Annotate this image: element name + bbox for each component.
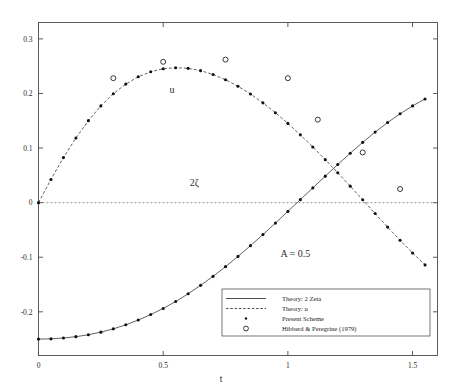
marker-dot xyxy=(62,156,65,159)
marker-open-circle xyxy=(315,117,320,122)
marker-dot xyxy=(112,327,115,330)
figure-container: 00.511.50.30.20.10-0.1-0.2 A = 0.5u2ζ t … xyxy=(0,0,468,389)
marker-dot xyxy=(49,178,52,181)
marker-dot xyxy=(399,112,402,115)
marker-dot xyxy=(137,75,140,78)
chart-canvas: 00.511.50.30.20.10-0.1-0.2 A = 0.5u2ζ t … xyxy=(0,0,468,389)
marker-dot xyxy=(199,69,202,72)
annotation-text: u xyxy=(169,84,174,95)
marker-dot xyxy=(299,133,302,136)
y-tick-label: 0.2 xyxy=(23,89,33,98)
marker-open-circle xyxy=(398,187,403,192)
x-tick-label: 0.5 xyxy=(159,361,169,370)
marker-dot xyxy=(37,338,40,341)
marker-dot xyxy=(87,119,90,122)
annotation-text: A = 0.5 xyxy=(280,248,310,259)
marker-dot xyxy=(374,131,377,134)
x-tick-label: 1 xyxy=(286,361,290,370)
y-tick-label: 0.3 xyxy=(23,35,33,44)
marker-dot xyxy=(212,275,215,278)
marker-dot xyxy=(162,307,165,310)
marker-dot xyxy=(212,73,215,76)
marker-dot xyxy=(249,244,252,247)
marker-dot xyxy=(361,198,364,201)
legend-label: Present Scheme xyxy=(282,315,324,322)
marker-dot xyxy=(187,292,190,295)
marker-dot xyxy=(324,158,327,161)
marker-dot xyxy=(249,92,252,95)
marker-dot xyxy=(149,313,152,316)
marker-dot xyxy=(336,163,339,166)
marker-dot xyxy=(286,122,289,125)
marker-dot xyxy=(37,201,40,204)
annotation-text: 2ζ xyxy=(190,177,199,189)
y-tick-label: 0.1 xyxy=(23,144,33,153)
marker-dot xyxy=(411,251,414,254)
marker-dot xyxy=(162,67,165,70)
marker-dot xyxy=(299,198,302,201)
legend-label: Hibberd & Peregrine (1979) xyxy=(282,325,357,333)
chart-legend: Theory: 2 ZetaTheory: uPresent SchemeHib… xyxy=(222,289,430,336)
marker-dot xyxy=(311,145,314,148)
marker-dot xyxy=(399,239,402,242)
marker-dot xyxy=(124,83,127,86)
marker-dot xyxy=(274,222,277,225)
marker-dot xyxy=(112,92,115,95)
marker-dot xyxy=(74,335,77,338)
marker-open-circle xyxy=(285,76,290,81)
y-tick-label: -0.2 xyxy=(21,308,33,317)
series-line xyxy=(39,68,426,265)
marker-dot xyxy=(361,141,364,144)
marker-dot xyxy=(149,70,152,73)
x-tick-label: 1.5 xyxy=(408,361,418,370)
marker-dot xyxy=(374,212,377,215)
marker-dot xyxy=(224,265,227,268)
marker-dot xyxy=(224,78,227,81)
y-tick-label: -0.1 xyxy=(21,253,33,262)
marker-dot xyxy=(99,104,102,107)
marker-dot xyxy=(423,263,426,266)
marker-dot xyxy=(386,226,389,229)
y-tick-label: 0 xyxy=(29,198,33,207)
marker-open-circle xyxy=(223,57,228,62)
x-axis-label: t xyxy=(220,374,223,384)
x-axis-title: t xyxy=(220,374,223,384)
marker-dot xyxy=(236,255,239,258)
marker-dot xyxy=(349,185,352,188)
marker-dot xyxy=(286,210,289,213)
marker-dot xyxy=(62,336,65,339)
marker-dot xyxy=(174,300,177,303)
x-tick-label: 0 xyxy=(37,361,41,370)
marker-dot xyxy=(349,152,352,155)
marker-dot xyxy=(274,111,277,114)
marker-dot xyxy=(411,104,414,107)
legend-sample-dot xyxy=(245,317,247,319)
marker-dot xyxy=(423,97,426,100)
marker-dot xyxy=(324,175,327,178)
marker-dot xyxy=(311,186,314,189)
marker-dot xyxy=(386,121,389,124)
marker-dot xyxy=(137,318,140,321)
marker-dot xyxy=(261,101,264,104)
legend-label: Theory: 2 Zeta xyxy=(282,295,321,302)
marker-dot xyxy=(336,171,339,174)
marker-dot xyxy=(99,331,102,334)
marker-dot xyxy=(74,136,77,139)
marker-open-circle xyxy=(360,150,365,155)
legend-label: Theory: u xyxy=(282,305,309,312)
marker-dot xyxy=(261,233,264,236)
marker-dot xyxy=(174,66,177,69)
marker-dot xyxy=(124,323,127,326)
marker-dot xyxy=(199,284,202,287)
marker-open-circle xyxy=(161,59,166,64)
marker-open-circle xyxy=(111,76,116,81)
marker-dot xyxy=(236,85,239,88)
marker-dot xyxy=(49,337,52,340)
chart-annotations: A = 0.5u2ζ xyxy=(169,84,310,259)
marker-dot xyxy=(187,67,190,70)
marker-dot xyxy=(87,333,90,336)
